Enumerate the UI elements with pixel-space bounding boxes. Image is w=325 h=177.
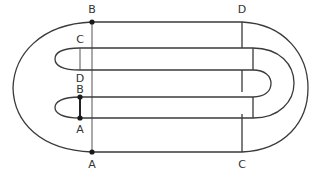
label-bottom-left-A: A: [88, 159, 96, 170]
right-middle-arc: [253, 48, 294, 118]
point-A-lower: [77, 115, 82, 120]
label-lower-band-A: A: [76, 124, 84, 135]
label-upper-band-C: C: [76, 34, 84, 45]
label-bottom-right-C: C: [238, 159, 246, 170]
label-lower-band-B: B: [76, 84, 84, 95]
outer-right-arc: [242, 22, 308, 152]
folded-strip-diagram: [0, 0, 325, 177]
lower-band-left-cap: [55, 97, 80, 118]
label-top-left-B: B: [88, 4, 96, 15]
upper-band-left-cap: [55, 48, 80, 70]
right-inner-arc: [253, 70, 271, 97]
point-B-top: [89, 19, 94, 24]
point-A-bottom: [89, 149, 94, 154]
label-top-right-D: D: [238, 4, 246, 15]
